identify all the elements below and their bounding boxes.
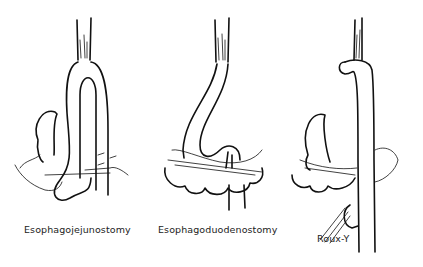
panel-roux-y-drawing: [292, 18, 398, 252]
label-esophagojejunostomy: Esophagojejunostomy: [24, 224, 131, 235]
label-roux-y: Roux-Y: [317, 233, 349, 244]
panel-esophagojejunostomy-drawing: [15, 18, 128, 200]
panel-esophagoduodenostomy-drawing: [165, 18, 263, 210]
label-esophagoduodenostomy: Esophagoduodenostomy: [158, 224, 277, 235]
